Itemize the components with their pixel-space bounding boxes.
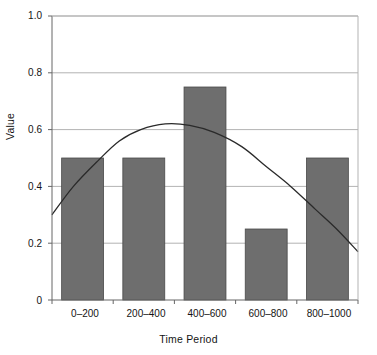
bar-line-chart: Value 0 0.2 0.4 0.6 0.8 1.0 0–200 200–40… bbox=[0, 0, 377, 355]
bar-0 bbox=[62, 158, 104, 300]
bar-1 bbox=[123, 158, 165, 300]
y-tick-label-0: 0 bbox=[12, 295, 42, 306]
x-axis-title: Time Period bbox=[0, 333, 377, 345]
bar-series bbox=[62, 87, 349, 300]
y-tick-label-5: 1.0 bbox=[12, 10, 42, 21]
y-tick-label-1: 0.2 bbox=[12, 238, 42, 249]
bar-4 bbox=[306, 158, 348, 300]
y-tick-label-3: 0.6 bbox=[12, 124, 42, 135]
x-tick-label-1: 200–400 bbox=[116, 308, 176, 319]
y-tick-label-4: 0.8 bbox=[12, 67, 42, 78]
plot-area bbox=[0, 0, 377, 355]
bar-2 bbox=[184, 87, 226, 300]
x-tick-label-3: 600–800 bbox=[238, 308, 298, 319]
x-tick-label-0: 0–200 bbox=[55, 308, 115, 319]
x-tick-label-2: 400–600 bbox=[177, 308, 237, 319]
y-tick-label-2: 0.4 bbox=[12, 181, 42, 192]
x-tick-label-4: 800–1000 bbox=[297, 308, 361, 319]
bar-3 bbox=[245, 229, 287, 300]
